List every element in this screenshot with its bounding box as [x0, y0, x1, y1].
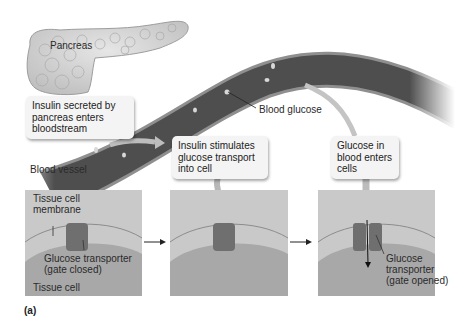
- cell-illustration-stimulated: [170, 190, 288, 296]
- pancreas-label: Pancreas: [50, 40, 92, 51]
- glucose-transporter-closed: [66, 223, 88, 251]
- blood-vessel-label: Blood vessel: [30, 164, 87, 175]
- panel-insulin-stimulates: [170, 190, 288, 296]
- glucose-transporter: [213, 223, 235, 251]
- pancreas-illustration: [27, 21, 188, 94]
- transporter-opened-label: Glucose transporter (gate opened): [386, 253, 448, 286]
- panel-tag: (a): [24, 305, 36, 316]
- callout-insulin-stimulates: Insulin stimulates glucose transport int…: [172, 136, 268, 179]
- glucose-transporter-open-right: [369, 223, 382, 251]
- callout-glucose-enters: Glucose in blood enters cells: [331, 136, 399, 179]
- blood-glucose-label: Blood glucose: [259, 104, 322, 115]
- glucose-transporter-open-left: [353, 223, 366, 251]
- transporter-closed-label: Glucose transporter (gate closed): [44, 253, 132, 275]
- callout-insulin-secreted: Insulin secreted by pancreas enters bloo…: [26, 96, 134, 139]
- tissue-cell-label: Tissue cell: [33, 282, 80, 293]
- tissue-cell-membrane-label: Tissue cell membrane: [33, 193, 81, 215]
